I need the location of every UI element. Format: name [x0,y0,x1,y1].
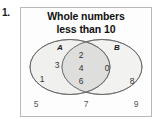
intersection-member-4: 4 [76,63,86,73]
set-b-member-0: 0 [102,63,112,73]
set-a-member-1: 1 [37,74,47,84]
outside-member-7: 7 [81,99,91,109]
intersection-member-6: 6 [76,76,86,86]
set-a-member-3: 3 [52,60,62,70]
set-b-label: B [114,43,120,52]
set-b-member-8: 8 [127,76,137,86]
intersection-member-2: 2 [76,50,86,60]
outside-member-5: 5 [31,99,41,109]
set-a-label: A [57,43,63,52]
outside-member-9: 9 [131,99,141,109]
exercise-number: 1. [2,7,10,18]
venn-diagram-exercise: 1. Whole numbers less than 10 A B 3 1 2 … [0,0,155,119]
